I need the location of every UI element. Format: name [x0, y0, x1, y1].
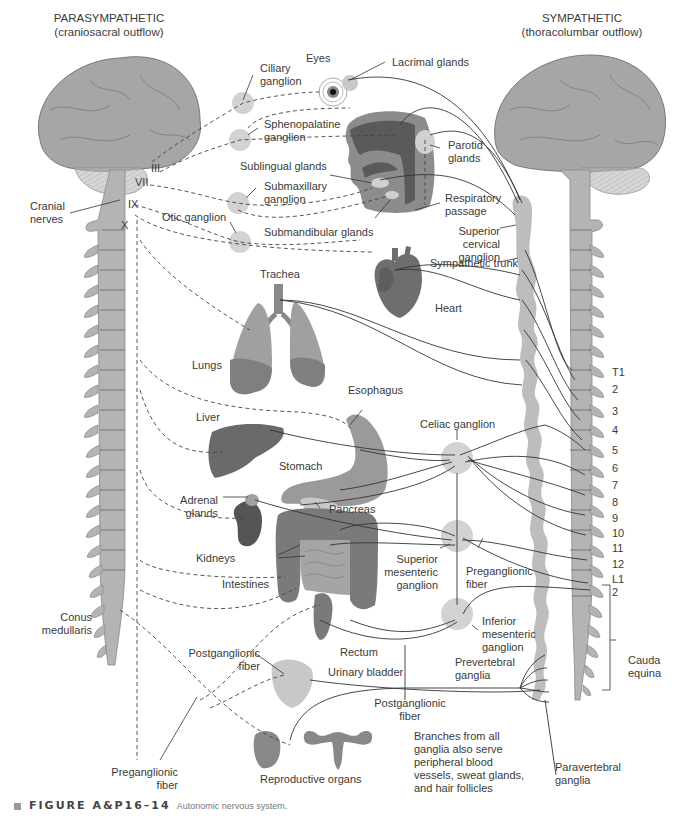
spinal-level: 12: [612, 558, 624, 571]
spinal-level: 6: [612, 462, 618, 475]
spinal-level: 8: [612, 496, 618, 509]
trachea-label: Trachea: [260, 268, 300, 281]
caption-bullet-icon: [14, 803, 21, 810]
sublingual-glands-label: Sublingual glands: [240, 160, 327, 173]
lacrimal-glands-label: Lacrimal glands: [392, 56, 469, 69]
parasympathetic-title: PARASYMPATHETIC: [34, 12, 184, 25]
figure-id: FIGURE A&P16–14: [29, 799, 171, 812]
spinal-level: T1: [612, 366, 625, 379]
sympathetic-title: SYMPATHETIC: [507, 12, 657, 25]
submandibular-glands-label: Submandibular glands: [264, 226, 373, 239]
intestines-label: Intestines: [222, 578, 269, 591]
stomach-label: Stomach: [279, 460, 322, 473]
spinal-level: 11: [612, 542, 623, 555]
sphenopalatine-ganglion-label: Sphenopalatine ganglion: [264, 118, 340, 144]
kidneys-label: Kidneys: [196, 552, 235, 565]
postganglionic-fiber-left-label: Postganglionic fiber: [180, 647, 260, 673]
liver: [208, 424, 283, 478]
prevertebral-ganglia-label: Prevertebral ganglia: [455, 656, 515, 682]
figure-caption: FIGURE A&P16–14Autonomic nervous system.: [14, 799, 287, 812]
heart-label: Heart: [435, 302, 462, 315]
sympathetic-subtitle: (thoracolumbar outflow): [500, 26, 664, 39]
spinal-level: 10: [612, 527, 624, 540]
spinal-level: 5: [612, 444, 618, 457]
adrenal-glands-label: Adrenal glands: [170, 494, 218, 520]
esophagus-label: Esophagus: [348, 384, 403, 397]
head-profile: [346, 111, 435, 213]
liver-label: Liver: [196, 411, 220, 424]
nerve-vii-label: VII: [135, 176, 148, 189]
nerve-x-label: X: [121, 219, 128, 232]
superior-mesenteric-ganglion-label: Superior mesenteric ganglion: [370, 553, 438, 592]
rectum-label: Rectum: [340, 646, 378, 659]
heart: [375, 246, 422, 318]
figure-caption-text: Autonomic nervous system.: [177, 801, 288, 811]
nerve-ix-label: IX: [128, 198, 138, 211]
pancreas-label: Pancreas: [329, 503, 375, 516]
postganglionic-fiber-bottom-label: Postganglionic fiber: [370, 697, 450, 723]
cranial-nerves-label: Cranial nerves: [30, 200, 65, 226]
nerve-iii-label: III: [151, 162, 160, 175]
spinal-level: 2: [612, 586, 618, 599]
autonomic-nervous-system-diagram: [0, 0, 695, 820]
eyes-label: Eyes: [306, 52, 330, 65]
conus-medullaris-label: Conus medullaris: [30, 611, 92, 637]
left-spinal-cord: [84, 170, 125, 665]
cauda-equina-label: Cauda equina: [628, 654, 661, 680]
spinal-level: 7: [612, 479, 618, 492]
spinal-level: 9: [612, 512, 618, 525]
inferior-mesenteric-ganglion-label: Inferior mesenteric ganglion: [482, 615, 536, 654]
submaxillary-ganglion-label: Submaxillary ganglion: [264, 180, 327, 206]
parotid-glands-label: Parotid glands: [448, 139, 483, 165]
preganglionic-fiber-right-label: Preganglionic fiber: [466, 565, 533, 591]
parasympathetic-subtitle: (craniosacral outflow): [34, 26, 184, 39]
reproductive-organs-label: Reproductive organs: [260, 773, 362, 786]
paravertebral-ganglia-label: Paravertebral ganglia: [555, 761, 621, 787]
ciliary-ganglion-label: Ciliary ganglion: [260, 62, 302, 88]
spinal-level: L1: [612, 573, 624, 586]
urinary-bladder-label: Urinary bladder: [328, 666, 403, 679]
spinal-level: 4: [612, 424, 618, 437]
intestines: [276, 508, 378, 640]
respiratory-passage-label: Respiratory passage: [445, 192, 501, 218]
spinal-level: 2: [612, 383, 618, 396]
celiac-ganglion-label: Celiac ganglion: [420, 418, 495, 431]
lungs-trachea: [230, 284, 325, 394]
lungs-label: Lungs: [192, 359, 222, 372]
kidney-adrenal: [234, 494, 262, 546]
preganglionic-fiber-left-label: Preganglionic fiber: [96, 766, 178, 792]
urinary-bladder: [272, 660, 313, 708]
sympathetic-trunk-label: Sympathetic trunk: [430, 257, 518, 270]
branches-note: Branches from all ganglia also serve per…: [414, 730, 524, 795]
spinal-level: 3: [612, 405, 618, 418]
otic-ganglion-label: Otic ganglion: [162, 211, 226, 224]
